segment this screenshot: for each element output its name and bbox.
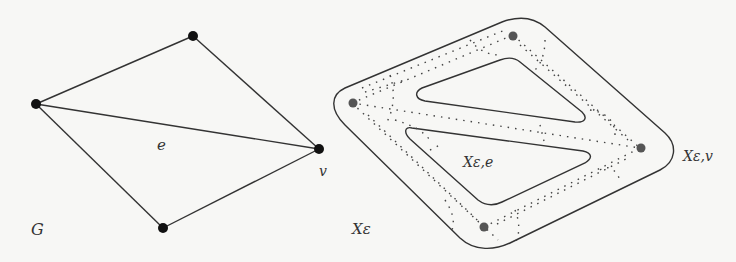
vertex-b	[188, 31, 198, 41]
region-vertex-right	[637, 144, 646, 153]
label-v: v	[319, 163, 327, 179]
inner-boundary-lower	[406, 128, 591, 205]
graph-vertices	[31, 31, 324, 233]
edge-a-c	[36, 104, 163, 228]
outer-boundary	[334, 18, 674, 248]
label-e: e	[157, 136, 166, 154]
diagram-canvas: e v G	[0, 0, 736, 262]
label-x-eps-v: Xε,v	[682, 148, 713, 164]
edge-c-v	[163, 149, 319, 228]
vertex-a	[31, 99, 41, 109]
region-vertex-left	[349, 99, 358, 108]
graph-g	[36, 36, 319, 228]
label-x-eps: Xε	[351, 220, 371, 238]
label-x-eps-e: Xε,e	[462, 154, 493, 170]
label-g: G	[31, 220, 44, 239]
inner-boundary-upper	[417, 58, 585, 122]
vertex-v	[314, 144, 324, 154]
edge-a-b	[36, 36, 193, 104]
diagram-svg: e v G	[0, 0, 736, 262]
region-vertex-top	[509, 32, 518, 41]
region-vertex-bottom	[480, 223, 489, 232]
vertex-c	[158, 223, 168, 233]
